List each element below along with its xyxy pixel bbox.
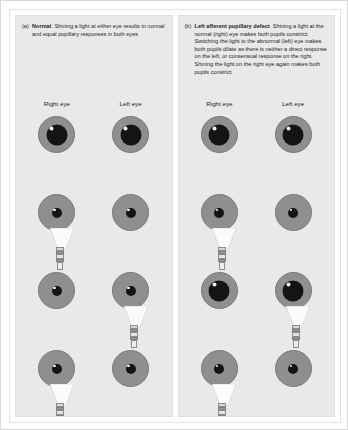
corneal-reflex-glint (290, 209, 292, 211)
pupil-constricted (214, 208, 224, 218)
eye-cell-left (92, 114, 170, 192)
eye-row (179, 348, 335, 417)
panel-caption-body: . Shining a light at the normal (right) … (195, 23, 327, 75)
eye-cell-right (18, 348, 96, 417)
eye-constricted (275, 350, 312, 387)
torch-handle (292, 325, 300, 348)
torch-handle (218, 403, 226, 417)
light-beam-icon (49, 384, 75, 405)
pupil-constricted (52, 286, 62, 296)
pupil-dilated (46, 124, 67, 145)
corneal-reflex-glint (286, 127, 290, 131)
eye-constricted (112, 272, 149, 309)
pupil-constricted (288, 208, 298, 218)
pupil-constricted (126, 364, 136, 374)
pupil-dilated (209, 280, 230, 301)
corneal-reflex-glint (50, 127, 54, 131)
corneal-reflex-glint (127, 287, 129, 289)
corneal-reflex-glint (216, 209, 218, 211)
eye-cell-right (181, 114, 259, 192)
eye-row (16, 114, 172, 192)
column-header-right-eye: Right eye (18, 100, 96, 107)
corneal-reflex-glint (124, 127, 128, 131)
eye-dilated (112, 116, 149, 153)
light-beam-icon (285, 306, 311, 327)
torch-icon (49, 228, 75, 270)
pupil-dilated (283, 280, 304, 301)
panel-marker: (b) (185, 23, 195, 76)
eye-cell-right (181, 192, 259, 270)
panel-caption-body: . Shining a light at either eye results … (32, 23, 164, 37)
torch-handle-segment (218, 415, 226, 417)
torch-handle-segment (219, 262, 225, 270)
corneal-reflex-glint (127, 365, 129, 367)
torch-icon (285, 306, 311, 348)
eye-row (16, 192, 172, 270)
light-beam-icon (49, 228, 75, 249)
column-header-right-eye: Right eye (181, 100, 259, 107)
torch-handle-segment (131, 340, 137, 348)
torch-handle-segment (56, 415, 64, 417)
torch-handle (130, 325, 138, 348)
eye-constricted (112, 350, 149, 387)
torch-handle (56, 247, 64, 270)
pupil-dilated (209, 124, 230, 145)
panel-caption-text: Normal. Shining a light at either eye re… (32, 23, 166, 38)
eye-dilated (201, 272, 238, 309)
pupil-dilated (283, 124, 304, 145)
corneal-reflex-glint (212, 127, 216, 131)
eye-row (179, 114, 335, 192)
torch-handle (56, 403, 64, 417)
torch-handle-segment (293, 340, 299, 348)
torch-handle-segment (57, 262, 63, 270)
eye-cell-left (92, 348, 170, 417)
eye-row (16, 348, 172, 417)
panel-normal: (a)Normal. Shining a light at either eye… (15, 15, 173, 417)
pupil-constricted (214, 364, 224, 374)
eye-grid: Right eyeLeft eye (16, 100, 172, 410)
eye-constricted (38, 350, 75, 387)
torch-icon (211, 228, 237, 270)
eye-constricted (201, 350, 238, 387)
eye-constricted (112, 194, 149, 231)
light-beam-icon (123, 306, 149, 327)
eye-dilated (275, 116, 312, 153)
panel-afferent-defect: (b)Left afferent pupillary defect. Shini… (178, 15, 336, 417)
eye-dilated (201, 116, 238, 153)
corneal-reflex-glint (286, 283, 290, 287)
torch-icon (211, 384, 237, 417)
column-header-left-eye: Left eye (92, 100, 170, 107)
torch-icon (123, 306, 149, 348)
eye-cell-right (18, 192, 96, 270)
pupil-constricted (52, 364, 62, 374)
pupil-constricted (52, 208, 62, 218)
pupil-constricted (288, 364, 298, 374)
torch-icon (49, 384, 75, 417)
pupil-dilated (120, 124, 141, 145)
column-header-left-eye: Left eye (254, 100, 332, 107)
eye-grid: Right eyeLeft eye (179, 100, 335, 410)
corneal-reflex-glint (290, 365, 292, 367)
corneal-reflex-glint (53, 209, 55, 211)
eye-constricted (275, 194, 312, 231)
eye-constricted (201, 194, 238, 231)
eye-constricted (38, 194, 75, 231)
eye-cell-left (254, 114, 332, 192)
eye-cell-left (254, 270, 332, 348)
panel-caption: (a)Normal. Shining a light at either eye… (16, 16, 172, 38)
light-beam-icon (211, 384, 237, 405)
eye-cell-right (18, 114, 96, 192)
corneal-reflex-glint (212, 283, 216, 287)
eye-row (179, 192, 335, 270)
panel-caption-lead: Left afferent pupillary defect (195, 23, 270, 29)
eye-dilated (38, 116, 75, 153)
corneal-reflex-glint (53, 365, 55, 367)
panel-caption-lead: Normal (32, 23, 51, 29)
torch-handle (218, 247, 226, 270)
eye-cell-left (92, 192, 170, 270)
panel-caption-text: Left afferent pupillary defect. Shining … (195, 23, 329, 76)
corneal-reflex-glint (216, 365, 218, 367)
eye-cell-left (92, 270, 170, 348)
eye-constricted (38, 272, 75, 309)
eye-row (179, 270, 335, 348)
